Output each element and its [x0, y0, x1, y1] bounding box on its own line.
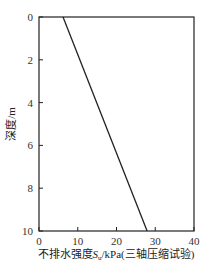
- x-axis-label: 不排水强度Su/kPa(三轴压缩试验): [38, 247, 195, 262]
- svg-text:10: 10: [72, 235, 84, 247]
- x-axis-ticks: 010203040: [36, 227, 200, 247]
- y-axis-label: 深度/m: [4, 107, 17, 141]
- svg-text:10: 10: [22, 225, 34, 237]
- strength-profile-line: [63, 17, 147, 231]
- undrained-strength-depth-chart: 0246810 010203040 深度/m 不排水强度Su/kPa(三轴压缩试…: [0, 0, 214, 273]
- y-axis-ticks: 0246810: [22, 11, 43, 237]
- svg-text:4: 4: [28, 97, 34, 109]
- svg-text:6: 6: [28, 139, 34, 151]
- svg-text:0: 0: [28, 11, 34, 23]
- svg-text:8: 8: [28, 182, 34, 194]
- svg-text:2: 2: [28, 54, 34, 66]
- svg-text:0: 0: [36, 235, 42, 247]
- svg-text:30: 30: [150, 235, 162, 247]
- plot-frame: [39, 17, 194, 231]
- svg-text:20: 20: [111, 235, 123, 247]
- svg-text:40: 40: [189, 235, 201, 247]
